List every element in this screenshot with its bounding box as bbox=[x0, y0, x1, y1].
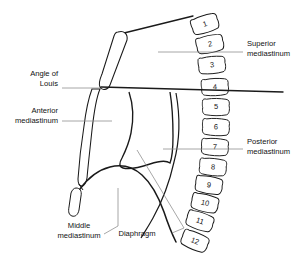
annotation-text: mediastinum bbox=[57, 231, 100, 240]
sternum-body bbox=[78, 89, 100, 186]
leader-line bbox=[104, 188, 118, 234]
vertebra-7: 7 bbox=[201, 138, 229, 157]
annotation-text: Anterior bbox=[31, 106, 58, 115]
annotation-anterior-mediastinum: Anteriormediastinum bbox=[15, 106, 112, 125]
first-rib-line bbox=[120, 16, 193, 34]
annotation-text: Middle bbox=[68, 221, 90, 230]
mediastinum-diagram: 123456789101112 SuperiormediastinumPoste… bbox=[0, 0, 301, 261]
annotation-text: Superior bbox=[247, 39, 276, 48]
vertebra-number: 8 bbox=[211, 162, 216, 171]
vertebra-number: 5 bbox=[214, 102, 218, 111]
xiphoid-process bbox=[69, 188, 82, 216]
vertebra-1: 1 bbox=[189, 12, 220, 37]
annotation-text: Louis bbox=[40, 79, 58, 88]
vertebra-6: 6 bbox=[202, 118, 230, 136]
vertebra-5: 5 bbox=[202, 98, 229, 115]
annotation-text: Posterior bbox=[247, 137, 278, 146]
anatomy-svg: 123456789101112 SuperiormediastinumPoste… bbox=[0, 0, 301, 261]
vertebra-9: 9 bbox=[194, 174, 223, 195]
angle-of-louis-plane bbox=[101, 87, 283, 92]
vertebra-4: 4 bbox=[201, 78, 229, 97]
annotation-text: mediastinum bbox=[247, 147, 290, 156]
manubrium bbox=[99, 31, 127, 89]
annotation-superior-mediastinum: Superiormediastinum bbox=[158, 39, 290, 58]
annotation-text: Diaphragm bbox=[118, 229, 155, 238]
annotation-text: mediastinum bbox=[247, 49, 290, 58]
vertebra-8: 8 bbox=[199, 157, 227, 177]
annotation-angle-of-louis: Angle ofLouis bbox=[30, 69, 100, 88]
vertebra-number: 6 bbox=[214, 122, 218, 131]
vertebral-column: 123456789101112 bbox=[179, 12, 230, 254]
annotation-middle-mediastinum: Middlemediastinum bbox=[57, 188, 118, 240]
vertebra-3: 3 bbox=[198, 55, 227, 75]
vertebra-number: 7 bbox=[213, 142, 218, 151]
heart-outline bbox=[120, 92, 173, 169]
annotation-text: Angle of bbox=[30, 69, 59, 78]
annotation-text: mediastinum bbox=[15, 116, 58, 125]
